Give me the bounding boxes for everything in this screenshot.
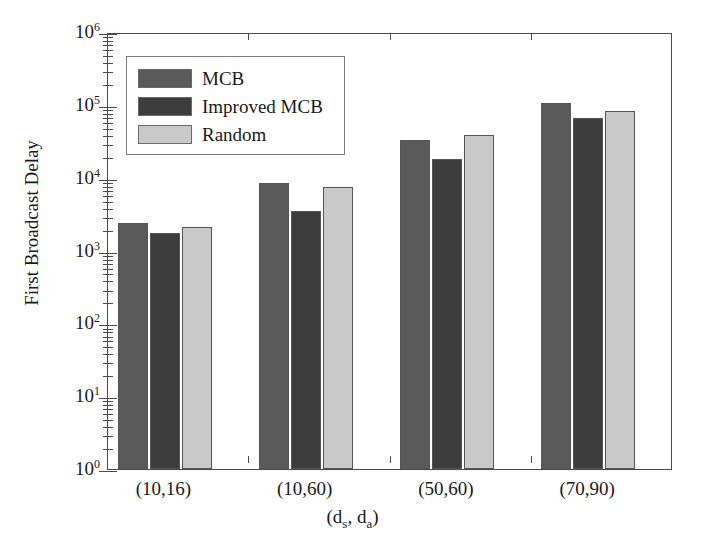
y-axis-major-tick (108, 107, 117, 108)
y-axis-minor-tick (103, 41, 108, 42)
y-axis-major-tick (99, 325, 108, 326)
y-axis-major-tick (99, 180, 108, 181)
y-axis-major-tick (108, 325, 117, 326)
y-axis-minor-tick (108, 118, 113, 119)
y-axis-minor-tick (108, 274, 113, 275)
y-axis-minor-tick (103, 401, 108, 402)
x-axis-tick (531, 456, 532, 463)
y-axis-minor-tick (103, 187, 108, 188)
y-axis-minor-tick (103, 436, 108, 437)
y-axis-minor-tick (103, 231, 108, 232)
y-axis-minor-tick (108, 409, 113, 410)
legend-item: Improved MCB (127, 92, 344, 120)
y-axis-minor-tick (103, 191, 108, 192)
x-axis-title-suffix: ) (372, 506, 378, 527)
x-axis-tick (390, 33, 391, 40)
y-axis-minor-tick (108, 136, 113, 137)
x-axis-tick (248, 33, 249, 40)
y-axis-minor-tick (108, 376, 113, 377)
y-axis-minor-tick (108, 427, 113, 428)
bar (323, 187, 353, 469)
y-axis-minor-tick (108, 256, 113, 257)
y-axis-minor-tick (108, 363, 113, 364)
y-axis-minor-tick (108, 209, 113, 210)
legend-swatch (138, 69, 192, 88)
y-axis-minor-tick (108, 231, 113, 232)
legend-label: MCB (202, 69, 244, 88)
y-axis-minor-tick (103, 269, 108, 270)
y-axis-minor-tick (108, 37, 113, 38)
y-axis-minor-tick (103, 449, 108, 450)
bar (150, 233, 180, 469)
y-axis-minor-tick (108, 50, 113, 51)
y-axis-minor-tick (103, 183, 108, 184)
y-axis-major-tick (108, 471, 117, 472)
y-axis-minor-tick (103, 405, 108, 406)
y-axis-major-tick (99, 471, 108, 472)
y-axis-minor-tick (103, 196, 108, 197)
y-axis-minor-tick (108, 114, 113, 115)
y-axis-minor-tick (103, 136, 108, 137)
y-axis-minor-tick (103, 129, 108, 130)
y-axis-major-tick (108, 34, 117, 35)
x-axis-tick-label: (50,60) (376, 478, 516, 500)
y-axis-minor-tick (108, 202, 113, 203)
y-axis-minor-tick (103, 45, 108, 46)
bar (182, 227, 212, 469)
y-axis-minor-tick (108, 291, 113, 292)
y-axis-minor-tick (108, 183, 113, 184)
y-axis-major-tick (108, 253, 117, 254)
y-axis-major-tick (99, 253, 108, 254)
y-axis-major-tick (99, 398, 108, 399)
y-axis-minor-tick (108, 341, 113, 342)
x-axis-title-prefix: (d (327, 506, 343, 527)
y-axis-title: First Broadcast Delay (21, 23, 43, 423)
y-axis-minor-tick (103, 291, 108, 292)
y-axis-minor-tick (103, 363, 108, 364)
legend-label: Improved MCB (202, 97, 323, 116)
y-axis-minor-tick (108, 45, 113, 46)
bar (400, 140, 430, 469)
y-axis-minor-tick (108, 56, 113, 57)
y-axis-minor-tick (108, 436, 113, 437)
y-axis-minor-tick (103, 123, 108, 124)
y-axis-minor-tick (103, 303, 108, 304)
y-axis-minor-tick (103, 209, 108, 210)
bar (541, 103, 571, 469)
y-axis-minor-tick (108, 347, 113, 348)
y-axis-minor-tick (103, 376, 108, 377)
legend-swatch (138, 125, 192, 144)
chart-legend: MCBImproved MCBRandom (126, 56, 345, 155)
y-axis-minor-tick (103, 341, 108, 342)
y-axis-minor-tick (103, 332, 108, 333)
legend-item: Random (127, 120, 344, 148)
y-axis-minor-tick (103, 72, 108, 73)
y-axis-minor-tick (103, 50, 108, 51)
y-axis-minor-tick (108, 281, 113, 282)
y-axis-minor-tick (108, 218, 113, 219)
y-axis-minor-tick (103, 274, 108, 275)
y-axis-minor-tick (103, 145, 108, 146)
y-axis-minor-tick (103, 264, 108, 265)
y-axis-minor-tick (108, 405, 113, 406)
y-axis-minor-tick (103, 37, 108, 38)
y-axis-minor-tick (108, 264, 113, 265)
x-axis-tick-label: (10,16) (94, 478, 234, 500)
y-axis-minor-tick (103, 114, 108, 115)
y-axis-minor-tick (108, 303, 113, 304)
y-axis-minor-tick (108, 354, 113, 355)
y-axis-minor-tick (103, 420, 108, 421)
x-axis-title: (ds, da) (0, 506, 705, 528)
bar (118, 223, 148, 469)
y-axis-minor-tick (108, 420, 113, 421)
x-axis-tick-label: (70,90) (517, 478, 657, 500)
y-axis-minor-tick (103, 202, 108, 203)
y-axis-minor-tick (108, 123, 113, 124)
bar (291, 211, 321, 469)
y-axis-minor-tick (108, 414, 113, 415)
y-axis-minor-tick (108, 337, 113, 338)
legend-label: Random (202, 125, 266, 144)
x-axis-tick (390, 456, 391, 463)
y-axis-minor-tick (103, 427, 108, 428)
y-axis-minor-tick (103, 414, 108, 415)
